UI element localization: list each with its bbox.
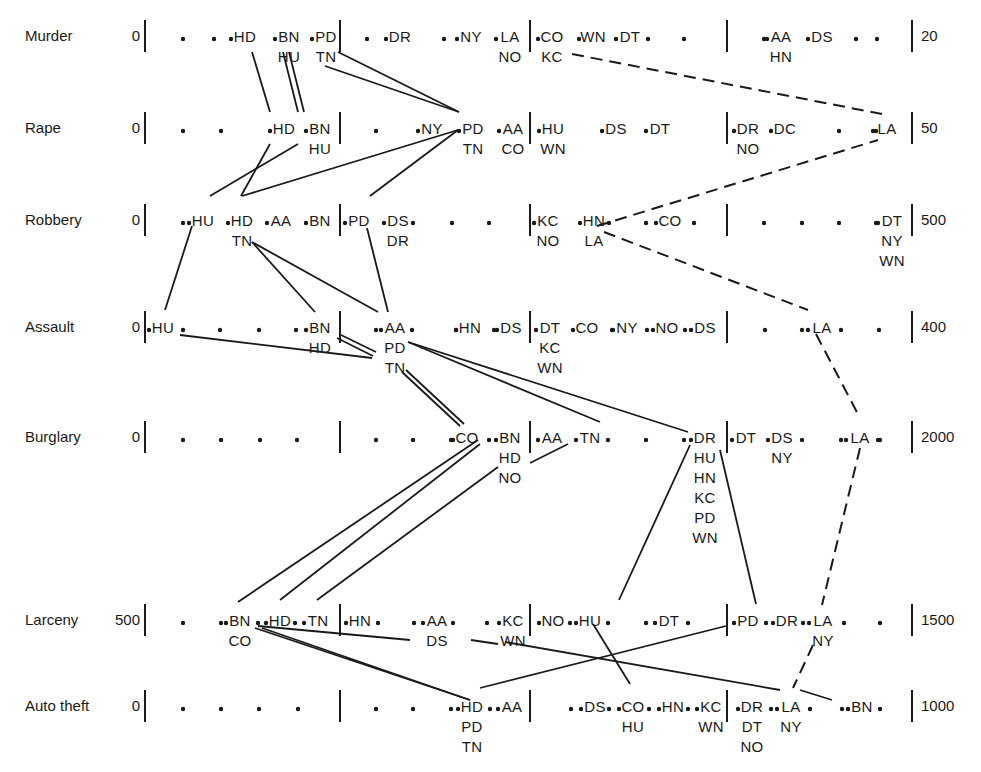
connector-line-dashed bbox=[822, 448, 860, 605]
city-code-label: PD bbox=[694, 509, 715, 526]
city-code-label: KC bbox=[502, 612, 523, 629]
city-dot bbox=[653, 621, 657, 625]
scale-dot bbox=[181, 707, 185, 711]
city-code-label: TN bbox=[580, 429, 601, 446]
city-dot bbox=[304, 129, 308, 133]
city-dot bbox=[536, 438, 540, 442]
city-code-label: WN bbox=[500, 632, 526, 649]
connector-line bbox=[800, 690, 832, 700]
city-code-label: PD bbox=[384, 339, 405, 356]
city-dot bbox=[532, 221, 536, 225]
row-label: Rape bbox=[25, 119, 61, 136]
city-code-label: AA bbox=[427, 612, 448, 629]
scale-dot bbox=[644, 221, 648, 225]
city-dot bbox=[611, 328, 615, 332]
scale-dot bbox=[374, 328, 378, 332]
scale-max-label: 20 bbox=[921, 27, 938, 44]
scale-dot bbox=[181, 621, 185, 625]
scale-dot bbox=[181, 129, 185, 133]
scale-dot bbox=[488, 707, 492, 711]
scale-dot bbox=[839, 328, 843, 332]
city-dot bbox=[147, 328, 151, 332]
scale-dot bbox=[181, 221, 185, 225]
city-dot bbox=[578, 221, 582, 225]
city-dot bbox=[775, 707, 779, 711]
city-code-label: DT bbox=[659, 612, 680, 629]
connector-line bbox=[406, 370, 464, 424]
city-code-label: KC bbox=[539, 339, 560, 356]
city-dot bbox=[456, 707, 460, 711]
city-code-label: NO bbox=[498, 469, 521, 486]
city-dot bbox=[846, 707, 850, 711]
city-code-label: HN bbox=[349, 612, 371, 629]
scale-dot bbox=[644, 621, 648, 625]
scale-dot bbox=[258, 438, 262, 442]
city-dot bbox=[416, 129, 420, 133]
connector-line bbox=[408, 342, 600, 422]
scale-min-label: 0 bbox=[132, 211, 140, 228]
city-code-label: DR bbox=[776, 612, 798, 629]
city-dot bbox=[226, 221, 230, 225]
city-dot bbox=[457, 129, 461, 133]
city-dot bbox=[534, 328, 538, 332]
city-dot bbox=[495, 328, 499, 332]
city-code-label: DR bbox=[389, 28, 411, 45]
city-code-label: HU bbox=[622, 718, 644, 735]
scale-dot bbox=[487, 438, 491, 442]
scale-min-label: 0 bbox=[132, 119, 140, 136]
city-code-label: DR bbox=[694, 429, 716, 446]
scale-dot bbox=[762, 221, 766, 225]
scale-dot bbox=[840, 707, 844, 711]
city-code-label: HD bbox=[461, 698, 483, 715]
city-dot bbox=[265, 221, 269, 225]
city-dot bbox=[187, 221, 191, 225]
city-code-label: DR bbox=[387, 232, 409, 249]
scale-dot bbox=[607, 707, 611, 711]
scale-dot bbox=[442, 37, 446, 41]
city-code-label: CO bbox=[575, 319, 598, 336]
city-dot bbox=[229, 37, 233, 41]
city-code-label: PD bbox=[315, 28, 336, 45]
connector-line bbox=[242, 130, 458, 196]
scale-max-label: 2000 bbox=[921, 428, 954, 445]
city-code-label: HU bbox=[192, 212, 214, 229]
scale-dot bbox=[569, 707, 573, 711]
city-dot bbox=[224, 621, 228, 625]
scale-dot bbox=[645, 328, 649, 332]
scale-dot bbox=[769, 707, 773, 711]
scale-dot bbox=[800, 438, 804, 442]
city-code-label: NO bbox=[541, 612, 564, 629]
scale-dot bbox=[842, 621, 846, 625]
city-dot bbox=[657, 707, 661, 711]
scale-dot bbox=[451, 621, 455, 625]
scale-dot bbox=[568, 621, 572, 625]
city-dot bbox=[600, 129, 604, 133]
city-dot bbox=[876, 221, 880, 225]
city-code-label: WN bbox=[879, 252, 905, 269]
connector-line bbox=[619, 445, 690, 600]
city-dot bbox=[732, 129, 736, 133]
connector-line-dashed bbox=[604, 232, 808, 310]
city-code-label: HD bbox=[273, 120, 295, 137]
city-dot bbox=[689, 438, 693, 442]
city-code-label: CO bbox=[658, 212, 681, 229]
row-label: Robbery bbox=[25, 211, 82, 228]
city-code-label: DS bbox=[426, 632, 447, 649]
city-code-label: NO bbox=[655, 319, 678, 336]
city-code-label: PD bbox=[462, 120, 483, 137]
city-code-label: HD bbox=[499, 449, 521, 466]
city-dot bbox=[264, 621, 268, 625]
city-code-label: HU bbox=[579, 612, 601, 629]
city-dot bbox=[807, 621, 811, 625]
city-code-label: LA bbox=[878, 120, 897, 137]
city-code-label: TN bbox=[385, 359, 406, 376]
city-code-label: NY bbox=[460, 28, 481, 45]
city-code-label: AA bbox=[542, 429, 563, 446]
city-code-label: DR bbox=[741, 698, 763, 715]
city-code-label: HU bbox=[278, 48, 300, 65]
scale-dot bbox=[878, 707, 882, 711]
city-code-label: DT bbox=[736, 429, 757, 446]
city-dot bbox=[806, 328, 810, 332]
scale-dot bbox=[686, 707, 690, 711]
scale-dot bbox=[801, 621, 805, 625]
